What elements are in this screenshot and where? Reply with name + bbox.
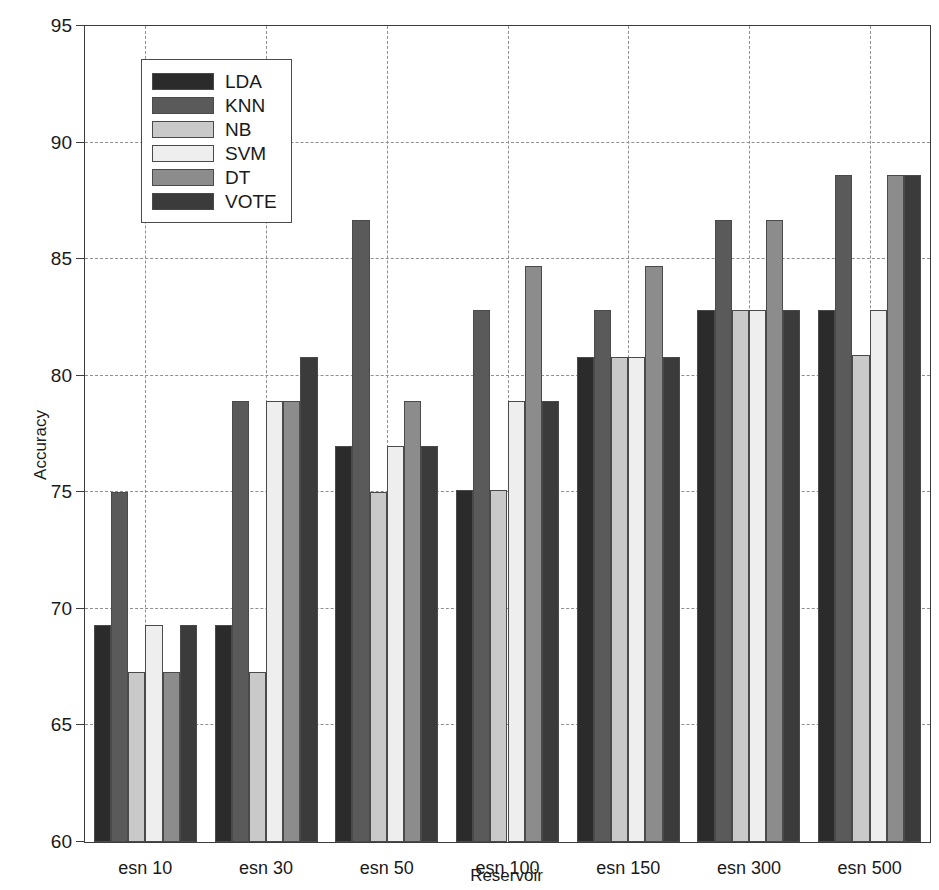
bar-vote-esn-30[interactable] bbox=[300, 357, 317, 842]
y-tick-mark-85 bbox=[76, 258, 85, 259]
bar-nb-esn-500[interactable] bbox=[852, 355, 869, 842]
bar-nb-esn-30[interactable] bbox=[249, 672, 266, 842]
y-tick-label-70: 70 bbox=[51, 598, 72, 620]
legend-swatch-icon-dt bbox=[152, 169, 214, 186]
bar-chart-figure: Accuracy 6065707580859095 esn 10esn 30es… bbox=[0, 0, 939, 890]
bar-group-esn-500: esn 500 bbox=[818, 26, 921, 842]
bar-vote-esn-500[interactable] bbox=[904, 175, 921, 842]
bar-lda-esn-30[interactable] bbox=[215, 625, 232, 842]
legend-swatch-icon-nb bbox=[152, 121, 214, 138]
bar-lda-esn-10[interactable] bbox=[94, 625, 111, 842]
bar-lda-esn-150[interactable] bbox=[577, 357, 594, 842]
bar-svm-esn-300[interactable] bbox=[749, 310, 766, 842]
bar-dt-esn-50[interactable] bbox=[404, 401, 421, 842]
bar-nb-esn-300[interactable] bbox=[732, 310, 749, 842]
legend-label: DT bbox=[225, 168, 250, 187]
bar-dt-esn-500[interactable] bbox=[887, 175, 904, 842]
bar-svm-esn-10[interactable] bbox=[145, 625, 162, 842]
legend-swatch-icon-vote bbox=[152, 193, 214, 210]
bar-lda-esn-100[interactable] bbox=[456, 490, 473, 842]
legend-item-nb[interactable]: NB bbox=[152, 117, 277, 141]
bar-lda-esn-300[interactable] bbox=[697, 310, 714, 842]
legend-swatch-icon-lda bbox=[152, 73, 214, 90]
bar-vote-esn-100[interactable] bbox=[542, 401, 559, 842]
y-tick-label-75: 75 bbox=[51, 481, 72, 503]
bar-group-esn-300: esn 300 bbox=[697, 26, 800, 842]
legend-item-vote[interactable]: VOTE bbox=[152, 189, 277, 213]
bars bbox=[577, 26, 680, 842]
bar-knn-esn-30[interactable] bbox=[232, 401, 249, 842]
bar-group-esn-50: esn 50 bbox=[335, 26, 438, 842]
legend-item-lda[interactable]: LDA bbox=[152, 69, 277, 93]
bar-dt-esn-300[interactable] bbox=[766, 220, 783, 842]
y-tick-label-80: 80 bbox=[51, 365, 72, 387]
plot-area: 6065707580859095 esn 10esn 30esn 50esn 1… bbox=[84, 25, 931, 843]
y-tick-mark-60 bbox=[76, 841, 85, 842]
y-tick-label-60: 60 bbox=[51, 831, 72, 853]
bar-svm-esn-50[interactable] bbox=[387, 446, 404, 842]
bar-nb-esn-100[interactable] bbox=[490, 490, 507, 842]
x-axis-title: Reservoir bbox=[84, 866, 929, 886]
legend-label: VOTE bbox=[225, 192, 277, 211]
bars bbox=[818, 26, 921, 842]
bars bbox=[697, 26, 800, 842]
y-tick-mark-75 bbox=[76, 491, 85, 492]
legend-swatch-icon-svm bbox=[152, 145, 214, 162]
legend: LDAKNNNBSVMDTVOTE bbox=[141, 59, 292, 223]
legend-item-svm[interactable]: SVM bbox=[152, 141, 277, 165]
bar-group-esn-100: esn 100 bbox=[456, 26, 559, 842]
y-tick-label-85: 85 bbox=[51, 248, 72, 270]
y-tick-mark-80 bbox=[76, 375, 85, 376]
legend-swatch-icon-knn bbox=[152, 97, 214, 114]
bar-svm-esn-500[interactable] bbox=[870, 310, 887, 842]
bar-knn-esn-500[interactable] bbox=[835, 175, 852, 842]
bar-knn-esn-300[interactable] bbox=[715, 220, 732, 842]
legend-item-dt[interactable]: DT bbox=[152, 165, 277, 189]
bar-knn-esn-100[interactable] bbox=[473, 310, 490, 842]
legend-item-knn[interactable]: KNN bbox=[152, 93, 277, 117]
bar-vote-esn-10[interactable] bbox=[180, 625, 197, 842]
bars bbox=[456, 26, 559, 842]
y-tick-label-90: 90 bbox=[51, 132, 72, 154]
y-tick-mark-70 bbox=[76, 608, 85, 609]
legend-label: LDA bbox=[225, 72, 262, 91]
bar-svm-esn-30[interactable] bbox=[266, 401, 283, 842]
bar-dt-esn-100[interactable] bbox=[525, 266, 542, 842]
y-tick-mark-95 bbox=[76, 25, 85, 26]
y-tick-label-65: 65 bbox=[51, 714, 72, 736]
y-tick-mark-65 bbox=[76, 724, 85, 725]
legend-label: NB bbox=[225, 120, 251, 139]
bar-svm-esn-150[interactable] bbox=[628, 357, 645, 842]
bar-vote-esn-300[interactable] bbox=[783, 310, 800, 842]
y-tick-mark-90 bbox=[76, 142, 85, 143]
legend-label: KNN bbox=[225, 96, 265, 115]
y-axis-title: Accuracy bbox=[31, 410, 51, 480]
bar-knn-esn-10[interactable] bbox=[111, 492, 128, 842]
bar-nb-esn-10[interactable] bbox=[128, 672, 145, 842]
bar-dt-esn-30[interactable] bbox=[283, 401, 300, 842]
bar-group-esn-150: esn 150 bbox=[577, 26, 680, 842]
bar-vote-esn-150[interactable] bbox=[663, 357, 680, 842]
bar-nb-esn-50[interactable] bbox=[370, 492, 387, 842]
bar-lda-esn-500[interactable] bbox=[818, 310, 835, 842]
bar-knn-esn-150[interactable] bbox=[594, 310, 611, 842]
bar-knn-esn-50[interactable] bbox=[352, 220, 369, 842]
bar-vote-esn-50[interactable] bbox=[421, 446, 438, 842]
bar-svm-esn-100[interactable] bbox=[508, 401, 525, 842]
bars bbox=[335, 26, 438, 842]
legend-label: SVM bbox=[225, 144, 266, 163]
y-tick-label-95: 95 bbox=[51, 15, 72, 37]
bar-lda-esn-50[interactable] bbox=[335, 446, 352, 842]
bar-dt-esn-10[interactable] bbox=[163, 672, 180, 842]
bar-nb-esn-150[interactable] bbox=[611, 357, 628, 842]
bar-dt-esn-150[interactable] bbox=[645, 266, 662, 842]
